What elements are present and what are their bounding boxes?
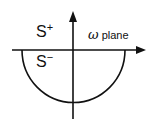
s-plus-base: S	[36, 23, 47, 40]
plane-text: plane	[99, 29, 129, 41]
plane-label: ω plane	[88, 28, 129, 41]
real-axis-arrow-icon	[136, 46, 146, 54]
s-minus-region-label: S−	[36, 54, 53, 70]
s-minus-sup: −	[47, 51, 53, 63]
s-plus-sup: +	[47, 21, 53, 33]
s-plus-region-label: S+	[36, 24, 53, 40]
s-minus-base: S	[36, 53, 47, 70]
contour-diagram	[0, 0, 155, 127]
omega-symbol: ω	[88, 27, 99, 42]
imaginary-axis-arrow-icon	[69, 11, 77, 22]
